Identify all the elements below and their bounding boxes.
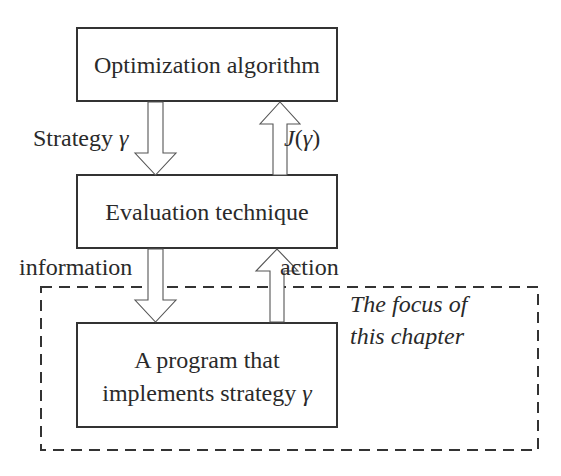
node-label-line1: A program that xyxy=(134,347,280,373)
edge-label-strategy: Strategy γ xyxy=(33,125,129,151)
paren-close: ) xyxy=(312,125,320,151)
down-arrow-icon xyxy=(135,249,176,322)
gamma-symbol: γ xyxy=(302,380,312,406)
edge-label-text: Strategy xyxy=(33,125,119,151)
edge-label-information: information xyxy=(19,254,132,280)
node-label: Optimization algorithm xyxy=(94,52,320,78)
gamma-symbol: γ xyxy=(119,125,129,151)
diagram-canvas: Optimization algorithm Evaluation techni… xyxy=(0,0,561,476)
focus-annotation-line2: this chapter xyxy=(350,323,465,349)
node-evaluation-technique: Evaluation technique xyxy=(77,175,337,248)
node-optimization-algorithm: Optimization algorithm xyxy=(77,28,337,101)
down-arrow-icon xyxy=(135,102,176,175)
focus-annotation-line1: The focus of xyxy=(350,291,471,317)
node-box xyxy=(77,323,337,427)
edge-label-j-gamma: J(γ) xyxy=(284,125,320,151)
node-program: A program that implements strategy γ xyxy=(77,323,337,427)
node-label-line2: implements strategy γ xyxy=(102,380,312,406)
paren-open: ( xyxy=(295,125,303,151)
node-label: Evaluation technique xyxy=(105,199,308,225)
node-label-text: implements strategy xyxy=(102,380,302,406)
edge-label-action: action xyxy=(280,254,339,280)
